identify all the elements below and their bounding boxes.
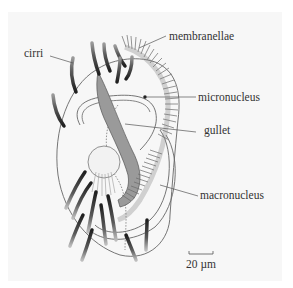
ciliate-diagram: cirri membranellae micronucleus gullet m… [0, 0, 293, 288]
scale-bar-label: 20 µm [186, 258, 216, 271]
cirri-frontal [53, 43, 132, 126]
label-membranellae: membranellae [169, 30, 234, 42]
label-micronucleus: micronucleus [198, 91, 260, 103]
label-gullet: gullet [204, 124, 231, 137]
scale-bar: 20 µm [186, 251, 216, 271]
micronucleus [143, 95, 147, 99]
peristome-bulb [88, 146, 120, 196]
label-cirri: cirri [24, 47, 43, 59]
label-macronucleus: macronucleus [200, 189, 264, 201]
